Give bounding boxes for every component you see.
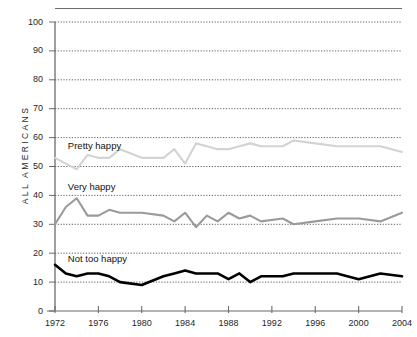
y-tick-label-100: 100 [19, 18, 43, 27]
series-line-very-happy [55, 198, 402, 227]
x-tick-label-1992: 1992 [252, 319, 292, 328]
y-tick-label-60: 60 [19, 133, 43, 142]
x-tick-label-2000: 2000 [339, 319, 379, 328]
x-tick-label-1980: 1980 [122, 319, 162, 328]
series-label-pretty-happy: Pretty happy [68, 141, 121, 151]
gridlines-group [55, 22, 402, 282]
x-tick-label-1984: 1984 [165, 319, 205, 328]
series-label-very-happy: Very happy [68, 182, 116, 192]
y-tick-label-50: 50 [19, 162, 43, 171]
x-tick-label-1972: 1972 [35, 319, 75, 328]
y-tick-label-90: 90 [19, 46, 43, 55]
y-tick-label-40: 40 [19, 191, 43, 200]
series-label-not-too-happy: Not too happy [68, 254, 127, 264]
y-tick-label-70: 70 [19, 104, 43, 113]
y-tick-label-10: 10 [19, 278, 43, 287]
x-tick-marks-group [49, 22, 402, 313]
x-tick-label-2004: 2004 [382, 319, 417, 328]
x-tick-label-1988: 1988 [209, 319, 249, 328]
y-tick-label-80: 80 [19, 75, 43, 84]
y-tick-label-30: 30 [19, 220, 43, 229]
x-tick-label-1976: 1976 [78, 319, 118, 328]
y-tick-label-20: 20 [19, 249, 43, 258]
x-tick-label-1996: 1996 [295, 319, 335, 328]
y-tick-label-0: 0 [19, 307, 43, 316]
